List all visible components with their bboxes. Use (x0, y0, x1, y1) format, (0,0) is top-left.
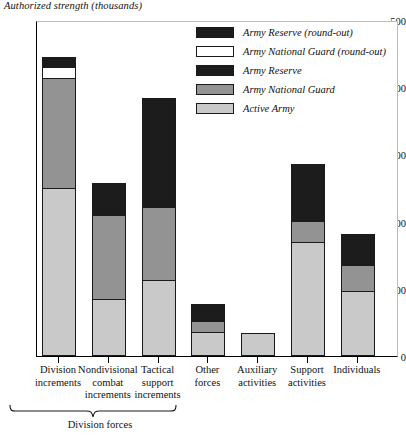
bar-segment (291, 242, 325, 356)
legend-swatch (196, 27, 234, 38)
bar-segment (142, 280, 176, 356)
x-tick-label-line: activities (276, 377, 338, 390)
x-tick-mark (207, 357, 208, 363)
x-tick-mark (257, 357, 258, 363)
division-forces-label: Division forces (40, 419, 160, 430)
legend-swatch (196, 46, 234, 57)
bar-segment (291, 164, 325, 221)
bar-2 (92, 183, 126, 356)
legend-label: Army Reserve (round-out) (243, 27, 353, 38)
x-tick-label: Individuals (326, 364, 388, 377)
legend-label: Army Reserve (243, 65, 302, 76)
x-tick-label-line: Individuals (326, 364, 388, 377)
bar-7 (341, 234, 375, 356)
bar-segment (191, 304, 225, 321)
legend-swatch (196, 65, 234, 76)
x-tick-mark (357, 357, 358, 363)
bar-segment (341, 234, 375, 265)
bar-segment (191, 321, 225, 332)
bar-segment (341, 291, 375, 356)
legend-item-1: Army Reserve (round-out) (196, 24, 396, 41)
bar-segment (42, 78, 76, 188)
x-tick-mark (58, 357, 59, 363)
x-tick-mark (307, 357, 308, 363)
bar-segment (42, 188, 76, 356)
legend-item-4: Army National Guard (196, 81, 396, 98)
chart-legend: Army Reserve (round-out)Army National Gu… (196, 24, 396, 119)
bar-segment (191, 332, 225, 356)
legend-label: Army National Guard (243, 84, 335, 95)
bar-segment (92, 215, 126, 299)
legend-swatch (196, 84, 234, 95)
bar-6 (291, 164, 325, 356)
x-tick-mark (108, 357, 109, 363)
bar-segment (142, 207, 176, 280)
bar-1 (42, 57, 76, 356)
bar-segment (142, 98, 176, 207)
legend-swatch (196, 103, 234, 114)
x-tick-mark (158, 357, 159, 363)
bar-segment (92, 183, 126, 215)
bar-segment (42, 57, 76, 67)
x-tick-label-line: increments (127, 389, 189, 402)
bar-segment (92, 299, 126, 356)
chart-axis-title: Authorized strength (thousands) (4, 0, 142, 11)
legend-item-5: Active Army (196, 100, 396, 117)
bar-4 (191, 304, 225, 356)
bar-segment (341, 265, 375, 291)
bar-5 (241, 333, 275, 356)
bar-segment (241, 333, 275, 356)
division-forces-brace (8, 404, 178, 418)
chart-page: Authorized strength (thousands) 50040030… (0, 0, 406, 439)
bar-segment (291, 221, 325, 242)
legend-label: Army National Guard (round-out) (243, 46, 386, 57)
legend-label: Active Army (243, 103, 294, 114)
legend-item-3: Army Reserve (196, 62, 396, 79)
bar-3 (142, 98, 176, 356)
legend-item-2: Army National Guard (round-out) (196, 43, 396, 60)
bar-segment (42, 67, 76, 78)
